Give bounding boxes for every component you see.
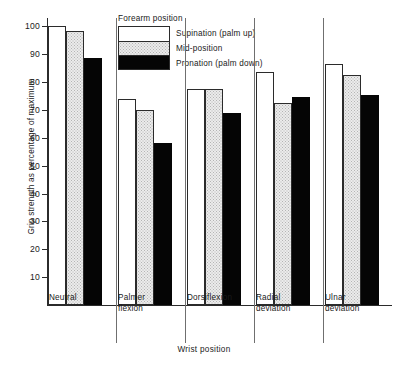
x-category-label: Palmer flexion xyxy=(118,293,145,314)
y-tick-label: 30 xyxy=(30,217,40,226)
legend-label-supination: Supination (palm up) xyxy=(176,26,263,41)
y-tick-label: 50 xyxy=(30,161,40,170)
bar-mid xyxy=(66,31,84,305)
bar-mid xyxy=(343,75,361,305)
y-tick-label: 90 xyxy=(30,50,40,59)
legend-label-pronation: Pronation (palm down) xyxy=(176,56,263,71)
bar-pronation xyxy=(223,113,241,305)
group-separator xyxy=(116,18,117,343)
bar-group-bars xyxy=(254,18,325,305)
y-tick-label: 10 xyxy=(30,273,40,282)
x-category-label: Radial deviation xyxy=(256,293,291,314)
grip-strength-bar-chart: Grip strength as percentage of maximum W… xyxy=(0,0,408,367)
legend-label-mid-position: Mid-position xyxy=(176,41,263,56)
bar-group xyxy=(323,18,392,305)
group-separator xyxy=(323,18,324,343)
group-separator xyxy=(185,18,186,343)
legend-swatch-mid-position xyxy=(119,41,169,55)
x-category-label: Dorsiflexion xyxy=(187,293,232,304)
bar-pronation xyxy=(361,95,379,305)
bar-group xyxy=(254,18,323,305)
y-tick-label: 70 xyxy=(30,106,40,115)
bar-supination xyxy=(48,26,66,305)
x-category-label: Ulnar deviation xyxy=(325,293,360,314)
bar-pronation xyxy=(154,143,172,305)
group-separator xyxy=(254,18,255,343)
bar-mid xyxy=(136,110,154,305)
x-axis-title: Wrist position xyxy=(0,345,408,354)
y-tick-label: 100 xyxy=(25,22,40,31)
bar-group xyxy=(47,18,116,305)
x-category-label: Neutral xyxy=(49,293,77,304)
bar-group-bars xyxy=(323,18,394,305)
y-tick-label: 40 xyxy=(30,189,40,198)
bar-pronation xyxy=(84,58,102,305)
bar-supination xyxy=(118,99,136,305)
bar-supination xyxy=(256,72,274,305)
legend-swatch-stack xyxy=(118,26,170,70)
legend-swatch-supination xyxy=(119,27,169,41)
y-tick-label: 80 xyxy=(30,78,40,87)
bar-supination xyxy=(325,64,343,305)
bar-pronation xyxy=(292,97,310,305)
legend: Forearm position Supination (palm up) Mi… xyxy=(118,14,263,71)
y-tick-label: 60 xyxy=(30,134,40,143)
y-tick-label: 20 xyxy=(30,245,40,254)
bar-supination xyxy=(187,89,205,305)
bar-mid xyxy=(205,89,223,305)
legend-title: Forearm position xyxy=(118,14,263,23)
legend-swatch-pronation xyxy=(119,55,169,69)
bar-mid xyxy=(274,103,292,305)
bar-group-bars xyxy=(47,18,117,305)
legend-labels: Supination (palm up) Mid-position Pronat… xyxy=(176,26,263,71)
